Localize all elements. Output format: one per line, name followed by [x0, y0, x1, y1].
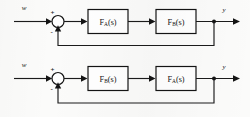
bottom-sum-minus-sign: - [51, 85, 54, 93]
bottom-block2-input-arrowhead [149, 75, 156, 81]
top-block-1-label: FA(s) [99, 18, 116, 28]
diagram-top: w + - FA(s) FB(s) y [14, 4, 240, 46]
top-block2-input-arrowhead [149, 18, 156, 24]
bottom-sum-plus-sign: + [51, 66, 55, 74]
bottom-output-label: y [221, 63, 226, 71]
top-sum-minus-sign: - [51, 28, 54, 36]
bottom-input-label: w [22, 61, 27, 69]
bottom-block-1-label: FB(s) [100, 75, 117, 85]
top-block-2-label: FB(s) [168, 18, 185, 28]
top-output-label: y [221, 6, 226, 14]
top-block-1-arg: (s) [108, 18, 117, 27]
top-output-arrowhead [233, 18, 240, 24]
bottom-block-2-label: FA(s) [167, 75, 184, 85]
block-diagram-svg: w + - FA(s) FB(s) y [0, 0, 250, 117]
bottom-block-2-arg: (s) [176, 75, 185, 84]
top-input-arrowhead [46, 18, 52, 24]
bottom-output-arrowhead [233, 75, 240, 81]
diagram-bottom: w + - FB(s) FA(s) y [14, 61, 240, 103]
top-input-label: w [22, 4, 27, 12]
bottom-block1-input-arrowhead [81, 75, 88, 81]
top-sum-plus-sign: + [51, 9, 55, 17]
figure-canvas: w + - FA(s) FB(s) y [0, 0, 250, 117]
top-block-2-arg: (s) [176, 18, 185, 27]
bottom-input-arrowhead [46, 75, 52, 81]
top-blockA-input-arrowhead [81, 18, 88, 24]
bottom-block-1-arg: (s) [108, 75, 117, 84]
